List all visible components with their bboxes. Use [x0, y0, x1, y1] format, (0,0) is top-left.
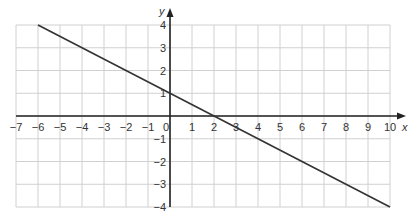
- x-tick-label: 0: [163, 121, 169, 133]
- y-tick-label: −3: [153, 178, 166, 190]
- x-tick-label: −7: [10, 121, 23, 133]
- y-tick-label: 4: [160, 19, 166, 31]
- y-tick-label: −4: [153, 201, 166, 213]
- x-tick-label: −1: [142, 121, 155, 133]
- x-tick-label: 10: [384, 121, 396, 133]
- x-tick-label: 5: [277, 121, 283, 133]
- tick-labels: xy−7−6−5−4−3−2−1012345678910−4−3−2−11234: [10, 5, 408, 213]
- x-tick-label: 9: [365, 121, 371, 133]
- x-tick-label: 2: [211, 121, 217, 133]
- x-tick-label: −6: [32, 121, 45, 133]
- y-tick-label: 2: [160, 65, 166, 77]
- y-axis-arrow-icon: [167, 8, 174, 17]
- x-axis-label: x: [401, 121, 408, 133]
- x-tick-label: 4: [255, 121, 261, 133]
- y-tick-label: −2: [153, 156, 166, 168]
- x-tick-label: −3: [98, 121, 111, 133]
- y-axis-label: y: [158, 5, 166, 17]
- x-tick-label: 7: [321, 121, 327, 133]
- x-tick-label: 8: [343, 121, 349, 133]
- x-tick-label: 6: [299, 121, 305, 133]
- y-tick-label: 3: [160, 42, 166, 54]
- line-graph: xy−7−6−5−4−3−2−1012345678910−4−3−2−11234: [0, 0, 417, 222]
- y-tick-label: −1: [153, 133, 166, 145]
- x-tick-label: −2: [120, 121, 133, 133]
- axes: [16, 8, 406, 207]
- x-tick-label: −4: [76, 121, 89, 133]
- x-tick-label: 1: [189, 121, 195, 133]
- x-axis-arrow-icon: [397, 113, 406, 120]
- x-tick-label: −5: [54, 121, 67, 133]
